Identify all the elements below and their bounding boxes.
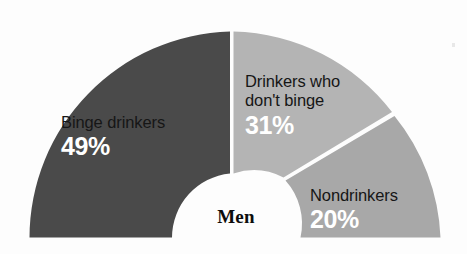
scan-artifact-speck bbox=[452, 43, 455, 47]
half-donut-chart: Binge drinkers 49% Drinkers who don't bi… bbox=[0, 0, 467, 254]
donut-svg bbox=[0, 0, 467, 254]
slice-binge-drinkers[interactable] bbox=[30, 32, 231, 238]
